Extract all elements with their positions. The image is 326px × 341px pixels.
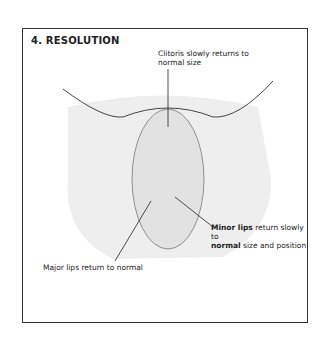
label-right-bold-1: Minor lips [211,223,253,232]
label-left: Major lips return to normal [43,263,193,272]
label-top: Clitoris slowly returns to normal size [158,49,268,67]
label-right-bold-2: normal [211,241,241,250]
diagram-panel: 4. RESOLUTION Clitoris slowly returns to… [22,28,308,323]
label-right-text-2: size and position [241,241,307,250]
label-right: Minor lips return slowly to normal size … [211,223,311,250]
illustration-placeholder [23,29,309,324]
central-form [132,109,204,249]
